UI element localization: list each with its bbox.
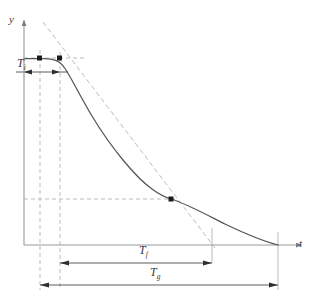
dimension-line-Tg: [40, 282, 278, 287]
dimension-label-Tf-subscript: f: [146, 250, 148, 259]
dimension-label-Tg: Tg: [150, 266, 160, 281]
dimension-Tg-arrow-right: [269, 282, 278, 287]
dimension-Tg-arrow-left: [40, 282, 49, 287]
dimension-Tf-arrow-left: [60, 260, 69, 265]
plateau-point-marker: [37, 56, 42, 61]
dimension-Tf-arrow-right: [203, 260, 212, 265]
dimension-label-Ti: Ti: [17, 57, 26, 72]
tangent-point-marker: [57, 56, 62, 61]
decay-curve: [24, 59, 278, 246]
dimension-label-Tg-subscript: g: [157, 272, 161, 281]
dimension-line-Tf: [60, 260, 212, 265]
decay-curve-figure: y t Ti Tf Tg: [0, 0, 315, 304]
curve-markers: [37, 56, 174, 202]
dimension-label-Tf-base: T: [139, 243, 146, 257]
inflection-point-marker: [169, 197, 174, 202]
dimension-label-Tg-base: T: [150, 265, 157, 279]
construction-guides: [24, 22, 278, 290]
tangent-construction-line: [43, 22, 215, 248]
dimension-label-Ti-base: T: [17, 56, 24, 70]
t-axis-label: t: [299, 238, 302, 249]
dimension-Ti-arrow-right: [52, 70, 60, 75]
y-axis-label: y: [9, 14, 14, 25]
axes-group: [24, 20, 302, 245]
figure-canvas: [0, 0, 315, 304]
dimension-label-Tf: Tf: [139, 244, 148, 259]
dimension-label-Ti-subscript: i: [24, 63, 26, 72]
